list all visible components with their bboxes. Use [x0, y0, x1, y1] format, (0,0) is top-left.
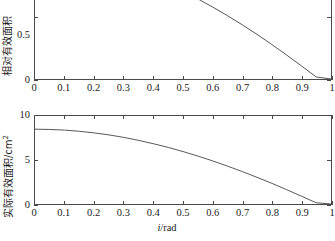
- bottom-chart-x-axis-title: i/rad: [0, 223, 334, 234]
- x-tick-mark: [123, 201, 124, 205]
- x-tick-label: 0.6: [206, 83, 219, 94]
- x-tick-mark: [64, 201, 65, 205]
- x-tick-mark: [243, 201, 244, 205]
- y-tick-mark: [327, 160, 331, 161]
- bottom-chart-curve-svg: [35, 116, 331, 204]
- x-tick-mark: [153, 201, 154, 205]
- y-tick-mark: [34, 205, 38, 206]
- x-tick-label: 0.4: [147, 208, 160, 219]
- x-tick-label: 0.5: [176, 83, 189, 94]
- y-tick-mark: [327, 115, 331, 116]
- y-tick-label: 0.5: [12, 30, 30, 41]
- y-tick-mark: [327, 80, 331, 81]
- x-tick-mark: [64, 115, 65, 119]
- x-tick-label: 0.1: [57, 208, 70, 219]
- x-tick-label: 0.3: [117, 208, 130, 219]
- x-tick-mark: [272, 201, 273, 205]
- x-tick-mark: [332, 201, 333, 205]
- x-tick-label: 0.5: [176, 208, 189, 219]
- x-tick-label: 1: [329, 208, 334, 219]
- x-tick-mark: [183, 201, 184, 205]
- top-chart-plot-area: [34, 0, 332, 80]
- x-tick-mark: [183, 76, 184, 80]
- x-tick-label: 0.9: [296, 83, 309, 94]
- x-tick-label: 0: [31, 83, 36, 94]
- chart-panel-bottom: 实际有效面积/cm2 0 5 10 00.10.20.30.40.50.60.7…: [0, 100, 334, 241]
- top-chart-curve: [35, 0, 331, 79]
- x-tick-mark: [332, 115, 333, 119]
- top-chart-y-axis-title: 相对有效面积: [3, 16, 13, 76]
- y-tick-mark: [327, 17, 331, 18]
- y-tick-label: 5: [18, 155, 30, 166]
- bottom-chart-y-axis-title-text: 实际有效面积/cm: [3, 139, 14, 218]
- x-tick-label: 0.2: [87, 83, 100, 94]
- y-tick-mark: [34, 80, 38, 81]
- x-tick-label: 0.7: [236, 208, 249, 219]
- x-tick-mark: [64, 76, 65, 80]
- x-tick-mark: [123, 76, 124, 80]
- x-tick-label: 0.8: [266, 83, 279, 94]
- bottom-chart-y-axis-title-superscript: 2: [2, 135, 10, 139]
- x-tick-mark: [213, 76, 214, 80]
- y-tick-mark: [34, 115, 38, 116]
- y-tick-mark: [34, 160, 38, 161]
- x-tick-mark: [332, 76, 333, 80]
- bottom-chart-y-axis-title: 实际有效面积/cm2: [3, 135, 14, 218]
- top-chart-curve-svg: [35, 0, 331, 79]
- x-tick-mark: [183, 115, 184, 119]
- x-tick-label: 0.4: [147, 83, 160, 94]
- x-tick-mark: [272, 115, 273, 119]
- x-tick-mark: [302, 76, 303, 80]
- x-tick-mark: [213, 201, 214, 205]
- x-tick-mark: [302, 115, 303, 119]
- y-tick-mark: [34, 17, 38, 18]
- x-tick-mark: [94, 76, 95, 80]
- y-tick-mark: [327, 205, 331, 206]
- x-tick-mark: [94, 201, 95, 205]
- x-tick-label: 0.8: [266, 208, 279, 219]
- y-tick-label: 0: [18, 200, 30, 211]
- x-tick-mark: [153, 115, 154, 119]
- x-tick-mark: [153, 76, 154, 80]
- x-tick-label: 0.1: [57, 83, 70, 94]
- x-tick-label: 0.2: [87, 208, 100, 219]
- x-tick-mark: [123, 115, 124, 119]
- x-tick-label: 1: [329, 83, 334, 94]
- x-tick-label: 0.7: [236, 83, 249, 94]
- x-tick-mark: [243, 115, 244, 119]
- x-tick-label: 0.3: [117, 83, 130, 94]
- chart-panel-top: 相对有效面积 0 0.5 00.10.20.30.40.50.60.70.80.…: [0, 0, 334, 100]
- x-tick-mark: [243, 76, 244, 80]
- y-tick-label: 0: [18, 75, 30, 86]
- x-tick-label: 0.6: [206, 208, 219, 219]
- x-tick-mark: [302, 201, 303, 205]
- bottom-chart-plot-area: [34, 115, 332, 205]
- bottom-chart-curve: [35, 129, 331, 204]
- x-tick-mark: [94, 115, 95, 119]
- x-tick-mark: [272, 76, 273, 80]
- x-tick-label: 0: [31, 208, 36, 219]
- y-tick-label: 10: [12, 110, 30, 121]
- x-tick-label: 0.9: [296, 208, 309, 219]
- bottom-chart-x-axis-title-unit: /rad: [160, 222, 176, 233]
- x-tick-mark: [213, 115, 214, 119]
